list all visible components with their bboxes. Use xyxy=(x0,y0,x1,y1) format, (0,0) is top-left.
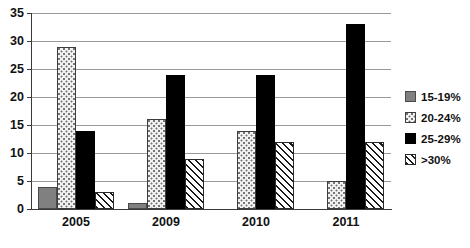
chart-legend: 15-19%20-24%25-29%>30% xyxy=(405,86,469,170)
y-axis-tick-label: 25 xyxy=(0,63,24,75)
legend-item[interactable]: >30% xyxy=(405,149,469,170)
bar-2010-25to29 xyxy=(256,75,275,209)
x-axis-label-2005: 2005 xyxy=(36,216,116,229)
x-axis-line xyxy=(31,209,392,210)
y-axis-tick-label: 30 xyxy=(0,35,24,47)
legend-swatch-over-30-icon xyxy=(405,154,416,165)
x-axis-label-2009: 2009 xyxy=(126,216,206,229)
bar-2009-25to29 xyxy=(166,75,185,209)
bar-2011-25to29 xyxy=(346,24,365,209)
bar-2011-20to24 xyxy=(327,181,346,209)
y-axis-tick-label: 20 xyxy=(0,91,24,103)
gridline xyxy=(31,13,391,14)
bar-2011-30 xyxy=(365,142,384,209)
y-axis-tick-label: 0 xyxy=(0,203,24,215)
bar-2010-30 xyxy=(275,142,294,209)
legend-swatch-20-24-icon xyxy=(405,112,416,123)
y-axis-tick-label: 35 xyxy=(0,7,24,19)
x-axis-label-2011: 2011 xyxy=(306,216,386,229)
bar-2005-20to24 xyxy=(57,47,76,209)
y-axis-tick-label: 15 xyxy=(0,119,24,131)
y-axis-line xyxy=(31,13,32,210)
bar-2005-30 xyxy=(95,192,114,209)
bar-2005-15to19 xyxy=(38,187,57,209)
y-axis-tick-label: 5 xyxy=(0,175,24,187)
legend-item[interactable]: 15-19% xyxy=(405,86,469,107)
legend-item-label: 20-24% xyxy=(421,112,461,124)
gridline xyxy=(31,41,391,42)
gridline xyxy=(31,97,391,98)
legend-item[interactable]: 25-29% xyxy=(405,128,469,149)
bar-chart: 05101520253035 2005200920102011 15-19%20… xyxy=(0,0,470,248)
bar-2005-25to29 xyxy=(76,131,95,209)
legend-item[interactable]: 20-24% xyxy=(405,107,469,128)
gridline xyxy=(31,125,391,126)
legend-swatch-25-29-icon xyxy=(405,133,416,144)
y-axis-tick-label: 10 xyxy=(0,147,24,159)
plot-area xyxy=(31,13,391,209)
bar-2009-30 xyxy=(185,159,204,209)
bar-2009-20to24 xyxy=(147,119,166,209)
bar-2010-20to24 xyxy=(237,131,256,209)
gridline xyxy=(31,69,391,70)
x-axis-label-2010: 2010 xyxy=(216,216,296,229)
legend-item-label: 15-19% xyxy=(421,91,461,103)
legend-item-label: >30% xyxy=(421,154,451,166)
legend-item-label: 25-29% xyxy=(421,133,461,145)
legend-swatch-15-19-icon xyxy=(405,91,416,102)
